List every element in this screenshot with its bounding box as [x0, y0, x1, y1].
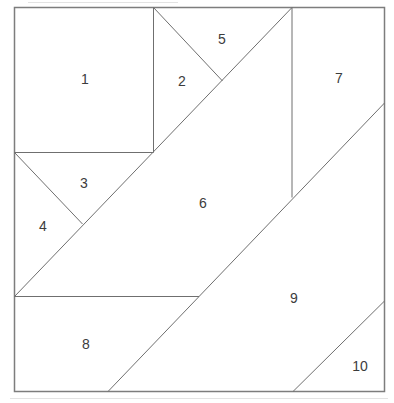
quilt-block-diagram: 12345678910 — [0, 0, 394, 403]
piece-label-8: 8 — [82, 336, 90, 352]
piece-label-3: 3 — [80, 175, 88, 191]
piece-label-7: 7 — [335, 70, 343, 86]
pattern-canvas: 12345678910 — [0, 0, 394, 403]
piece-label-2: 2 — [178, 73, 186, 89]
piece-label-4: 4 — [39, 218, 47, 234]
piece-label-9: 9 — [290, 290, 298, 306]
piece-label-10: 10 — [352, 358, 368, 374]
diagonal-piece10 — [293, 301, 385, 392]
piece-label-1: 1 — [81, 71, 89, 87]
piece-label-6: 6 — [199, 195, 207, 211]
diagonal-piece2-piece5 — [154, 8, 223, 82]
diagonal-piece3-piece4 — [15, 153, 83, 225]
piece-label-5: 5 — [218, 31, 226, 47]
long-diagonal-piece9-left — [108, 103, 385, 392]
